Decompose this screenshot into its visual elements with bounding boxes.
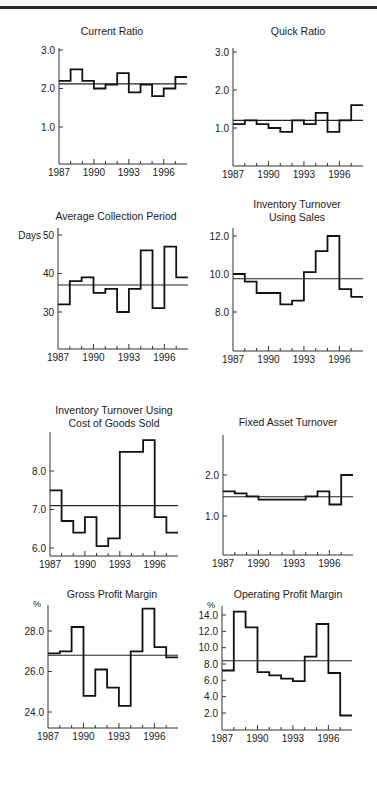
x-tick-label: 1993 xyxy=(109,559,132,570)
y-tick-label: 4.0 xyxy=(204,691,218,702)
y-axis-label: % xyxy=(207,600,215,610)
x-tick-label: 1993 xyxy=(108,731,131,742)
series-step-line xyxy=(58,247,188,312)
x-tick-label: 1993 xyxy=(282,733,305,744)
x-tick-label: 1996 xyxy=(318,558,341,569)
y-tick-label: 14.0 xyxy=(199,610,219,621)
y-tick-label: 3.0 xyxy=(41,45,55,56)
x-tick-label: 1996 xyxy=(153,167,176,178)
x-tick-label: 1987 xyxy=(37,731,60,742)
x-tick-label: 1993 xyxy=(118,167,141,178)
y-tick-label: 2.0 xyxy=(204,708,218,719)
x-tick-label: 1993 xyxy=(293,354,316,365)
y-axis-label: Days xyxy=(18,230,41,241)
x-tick-label: 1990 xyxy=(72,731,95,742)
chart-gross-profit-margin: Gross Profit Margin24.026.028.0%19871990… xyxy=(25,588,178,742)
y-tick-label: 1.0 xyxy=(215,123,229,134)
x-tick-label: 1996 xyxy=(317,733,340,744)
y-tick-label: 30 xyxy=(43,307,55,318)
chart-title: Inventory Turnover Using xyxy=(55,404,172,416)
series-step-line xyxy=(223,475,353,505)
chart-title: Quick Ratio xyxy=(271,25,325,37)
y-tick-label: 24.0 xyxy=(25,707,45,718)
x-tick-label: 1996 xyxy=(328,169,351,180)
y-axis-label: % xyxy=(33,599,41,609)
y-tick-label: 2.0 xyxy=(215,85,229,96)
chart-title: Fixed Asset Turnover xyxy=(239,416,338,428)
x-tick-label: 1987 xyxy=(39,559,62,570)
chart-title: Average Collection Period xyxy=(55,210,176,222)
y-tick-label: 12.0 xyxy=(210,231,230,242)
y-tick-label: 12.0 xyxy=(199,626,219,637)
y-tick-label: 10.0 xyxy=(210,269,230,280)
y-tick-label: 8.0 xyxy=(204,659,218,670)
chart-current-ratio: Current Ratio1.02.03.01987199019931996 xyxy=(41,25,187,178)
chart-title: Using Sales xyxy=(269,211,325,223)
y-tick-label: 7.0 xyxy=(32,504,46,515)
chart-title: Cost of Goods Sold xyxy=(68,417,159,429)
chart-fixed-asset-turnover: Fixed Asset Turnover1.02.019871990199319… xyxy=(205,416,353,569)
series-step-line xyxy=(50,440,178,546)
series-step-line xyxy=(222,612,352,716)
y-tick-label: 6.0 xyxy=(32,543,46,554)
y-tick-label: 1.0 xyxy=(41,122,55,133)
series-step-line xyxy=(233,236,363,304)
x-tick-label: 1987 xyxy=(211,733,234,744)
x-tick-label: 1990 xyxy=(257,169,280,180)
series-step-line xyxy=(48,609,178,706)
x-tick-label: 1987 xyxy=(47,352,70,363)
y-tick-label: 50 xyxy=(43,230,55,241)
series-step-line xyxy=(233,105,363,132)
x-tick-label: 1996 xyxy=(328,354,351,365)
x-tick-label: 1996 xyxy=(153,352,176,363)
x-tick-label: 1987 xyxy=(222,169,245,180)
chart-title: Gross Profit Margin xyxy=(67,588,158,600)
series-step-line xyxy=(59,69,187,96)
x-tick-label: 1987 xyxy=(222,354,245,365)
y-tick-label: 1.0 xyxy=(205,511,219,522)
y-tick-label: 28.0 xyxy=(25,626,45,637)
y-tick-label: 2.0 xyxy=(41,83,55,94)
x-tick-label: 1990 xyxy=(74,559,97,570)
chart-quick-ratio: Quick Ratio1.02.03.01987199019931996 xyxy=(215,25,363,180)
ratio-charts-panel: Current Ratio1.02.03.01987199019931996Qu… xyxy=(0,0,377,786)
x-tick-label: 1990 xyxy=(82,352,105,363)
x-tick-label: 1993 xyxy=(283,558,306,569)
x-tick-label: 1990 xyxy=(247,558,270,569)
y-tick-label: 8.0 xyxy=(32,466,46,477)
chart-operating-profit-margin: Operating Profit Margin2.04.06.08.010.01… xyxy=(199,588,352,744)
y-tick-label: 40 xyxy=(43,268,55,279)
chart-title: Current Ratio xyxy=(81,25,144,37)
chart-title: Inventory Turnover xyxy=(253,198,341,210)
x-tick-label: 1987 xyxy=(48,167,71,178)
y-tick-label: 26.0 xyxy=(25,666,45,677)
y-tick-label: 10.0 xyxy=(199,642,219,653)
x-tick-label: 1993 xyxy=(293,169,316,180)
y-tick-label: 6.0 xyxy=(204,675,218,686)
x-tick-label: 1987 xyxy=(212,558,235,569)
y-tick-label: 2.0 xyxy=(205,470,219,481)
x-tick-label: 1990 xyxy=(257,354,280,365)
x-tick-label: 1993 xyxy=(118,352,141,363)
y-tick-label: 3.0 xyxy=(215,47,229,58)
chart-average-collection-period: Average Collection Period304050Days19871… xyxy=(18,210,188,363)
x-tick-label: 1990 xyxy=(246,733,269,744)
x-tick-label: 1990 xyxy=(83,167,106,178)
y-tick-label: 8.0 xyxy=(215,307,229,318)
chart-inventory-turnover-sales: Inventory TurnoverUsing Sales8.010.012.0… xyxy=(210,198,363,365)
x-tick-label: 1996 xyxy=(144,559,167,570)
chart-title: Operating Profit Margin xyxy=(234,588,343,600)
x-tick-label: 1996 xyxy=(143,731,166,742)
chart-inventory-turnover-cogs: Inventory Turnover UsingCost of Goods So… xyxy=(32,404,178,570)
